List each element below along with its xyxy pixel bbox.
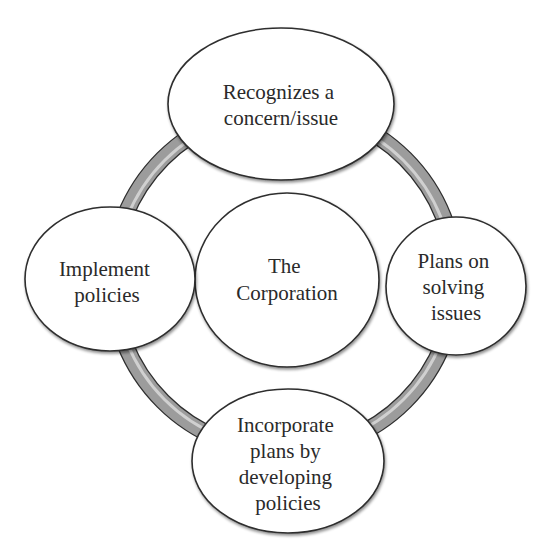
cycle-diagram: The Corporation Recognizes a concern/iss… xyxy=(0,0,552,553)
node-plans-on-solving: Plans on solving issues xyxy=(386,217,526,355)
node-incorporate-plans: Incorporate plans by developing policies xyxy=(192,389,384,533)
node-implement-policies: Implement policies xyxy=(25,207,195,351)
center-node: The Corporation xyxy=(195,193,379,367)
node-recognizes-concern: Recognizes a concern/issue xyxy=(168,28,394,180)
